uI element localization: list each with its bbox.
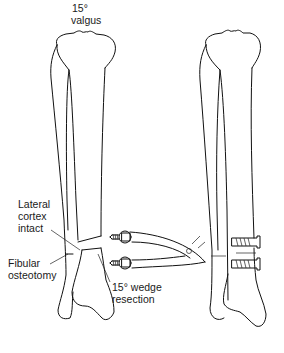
wedge-resection-pointer: [98, 254, 110, 282]
right-screw-lower-icon: [232, 258, 260, 270]
lateral-cortex-label-3: intact: [18, 222, 43, 234]
forceps-hinge: [187, 249, 192, 254]
right-bone-figure: [200, 30, 266, 326]
fibular-osteotomy-label-2: osteotomy: [8, 269, 57, 281]
left-tibia-plateau: [56, 31, 115, 68]
right-fibula: [200, 45, 224, 320]
osteotomy-diagram: 15° valgus Lateral cortex intact Fibular…: [0, 0, 284, 353]
left-wedge-lower: [82, 248, 101, 250]
right-tibia-medial-edge: [251, 68, 254, 238]
left-bone-figure: [50, 31, 115, 320]
right-fibula-inner: [217, 70, 220, 250]
left-distal-tibia: [72, 248, 114, 320]
lateral-cortex-label-2: cortex: [18, 210, 47, 222]
screw-forceps: [110, 231, 205, 269]
left-fibula-inner: [66, 70, 69, 230]
angle-label: 15°: [72, 2, 88, 14]
screw-upper-icon: [110, 231, 131, 243]
forceps-tick-1: [192, 236, 200, 244]
forceps-arm-lower-outer: [132, 262, 205, 268]
forceps-arm-lower-inner: [132, 256, 185, 260]
forceps-tick-2: [198, 242, 205, 248]
valgus-label: valgus: [71, 14, 101, 26]
left-wedge-upper: [78, 236, 101, 242]
right-screw-upper-icon: [232, 236, 260, 248]
fibular-osteotomy-label-1: Fibular: [8, 257, 41, 269]
screw-lower-icon: [110, 257, 131, 269]
wedge-resection-label-2: resection: [112, 293, 155, 305]
left-tibia-medial-edge: [101, 68, 105, 236]
lateral-cortex-label-1: Lateral: [18, 198, 50, 210]
right-tibia-plateau: [205, 30, 260, 68]
wedge-resection-label-1: 15° wedge: [112, 281, 162, 293]
